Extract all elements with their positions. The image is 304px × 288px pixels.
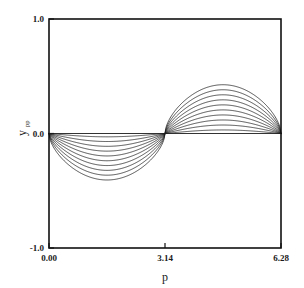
x-tick-label: 6.28	[273, 253, 289, 263]
x-tick-label: 3.14	[157, 253, 173, 263]
y-axis-title-subscript: pp	[23, 121, 30, 128]
y-tick-label: -1.0	[30, 243, 45, 253]
chart-background	[0, 0, 304, 288]
x-axis-title: p	[162, 270, 168, 284]
y-axis-title-base: y	[15, 130, 29, 136]
y-tick-label: 0.0	[33, 129, 45, 139]
line-chart: -1.00.01.0 0.003.146.28 p y pp	[0, 0, 304, 288]
x-tick-label: 0.00	[41, 253, 57, 263]
chart-container: -1.00.01.0 0.003.146.28 p y pp	[0, 0, 304, 288]
y-tick-label: 1.0	[33, 14, 45, 24]
